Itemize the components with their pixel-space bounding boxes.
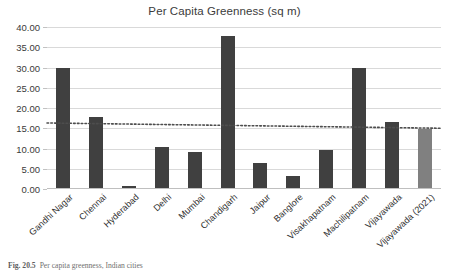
x-tick-label: Gandhi Nagar (27, 192, 75, 238)
bar (253, 163, 267, 189)
x-tick-label: Hyderabad (102, 192, 141, 229)
gridline (47, 149, 441, 150)
y-tick-label: 30.00 (16, 62, 40, 73)
caption-text: Per capita greenness, Indian cities (40, 261, 143, 270)
gridline (47, 27, 441, 28)
chart-title: Per Capita Greenness (sq m) (0, 5, 449, 17)
gridline (47, 68, 441, 69)
bar (155, 147, 169, 189)
figure-caption: Fig. 20.5Per capita greenness, Indian ci… (8, 261, 428, 273)
x-axis-line (47, 188, 441, 189)
bar (89, 117, 103, 189)
caption-number: Fig. 20.5 (8, 261, 36, 270)
gridline (47, 128, 441, 129)
x-tick-label: Vijayawada (2021) (375, 192, 436, 250)
y-tick-label: 20.00 (16, 103, 40, 114)
x-tick-label: Delhi (152, 192, 174, 213)
bar (352, 68, 366, 189)
y-tick-label: 5.00 (22, 163, 41, 174)
y-tick-label: 25.00 (16, 82, 40, 93)
y-axis: 0.005.0010.0015.0020.0025.0030.0035.0040… (0, 27, 43, 189)
y-tick-label: 10.00 (16, 143, 40, 154)
plot-area (47, 27, 441, 189)
gridline (47, 108, 441, 109)
y-tick-label: 0.00 (22, 184, 41, 195)
y-tick-label: 15.00 (16, 123, 40, 134)
gridline (47, 169, 441, 170)
figure-container: Per Capita Greenness (sq m) 0.005.0010.0… (0, 0, 449, 274)
bar (418, 129, 432, 189)
gridline (47, 88, 441, 89)
bar (221, 36, 235, 189)
bar (385, 122, 399, 189)
x-tick-label: Chennai (77, 192, 108, 222)
gridline (47, 47, 441, 48)
chart-card: Per Capita Greenness (sq m) 0.005.0010.0… (0, 0, 449, 250)
x-tick-label: Mumbai (176, 192, 206, 221)
x-axis-labels: Gandhi NagarChennaiHyderabadDelhiMumbaiC… (47, 190, 441, 248)
bar (188, 152, 202, 189)
x-tick-label: Jaipur (247, 192, 272, 216)
y-tick-label: 35.00 (16, 42, 40, 53)
bar (319, 150, 333, 189)
y-tick-label: 40.00 (16, 22, 40, 33)
bar (56, 68, 70, 189)
